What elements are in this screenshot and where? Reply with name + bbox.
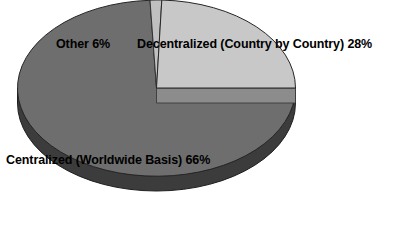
slice-decentralized-depth bbox=[157, 88, 296, 103]
slice-label-other: Other 6% bbox=[56, 38, 110, 51]
slice-label-decentralized: Decentralized (Country by Country) 28% bbox=[137, 38, 372, 51]
pie-chart: Other 6% Decentralized (Country by Count… bbox=[0, 0, 412, 225]
pie-chart-graphic bbox=[0, 0, 412, 225]
slice-label-centralized: Centralized (Worldwide Basis) 66% bbox=[6, 154, 210, 167]
slice-decentralized-group bbox=[157, 0, 296, 103]
